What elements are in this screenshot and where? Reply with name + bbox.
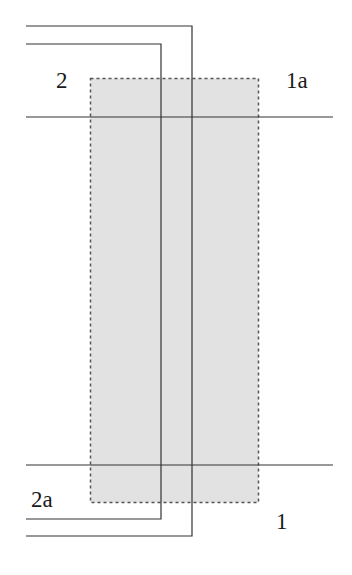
label-1: 1 xyxy=(276,509,288,534)
diagram-canvas: 2 1a 2a 1 xyxy=(0,0,352,575)
label-1a: 1a xyxy=(286,68,308,93)
label-2: 2 xyxy=(56,68,68,93)
label-2a: 2a xyxy=(31,487,53,512)
shaded-region xyxy=(91,79,259,503)
